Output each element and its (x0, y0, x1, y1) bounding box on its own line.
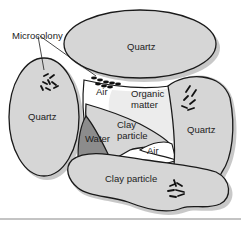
label-quartz-right: Quartz (187, 124, 216, 135)
label-organic-2: matter (131, 99, 158, 110)
label-air-top: Air (96, 86, 108, 97)
label-microcolony: Microcolony (12, 30, 63, 41)
label-air-bottom: Air (147, 145, 159, 156)
soil-aggregate-diagram: Microcolony Quartz Quartz Quartz Air Org… (0, 0, 241, 227)
label-quartz-left: Quartz (28, 111, 57, 122)
label-organic-1: Organic (131, 88, 165, 99)
label-clay-center-2: particle (117, 130, 148, 141)
label-clay-bottom: Clay particle (105, 173, 157, 184)
label-quartz-top: Quartz (127, 41, 156, 52)
label-water: Water (85, 133, 110, 144)
label-clay-center-1: Clay (117, 119, 136, 130)
